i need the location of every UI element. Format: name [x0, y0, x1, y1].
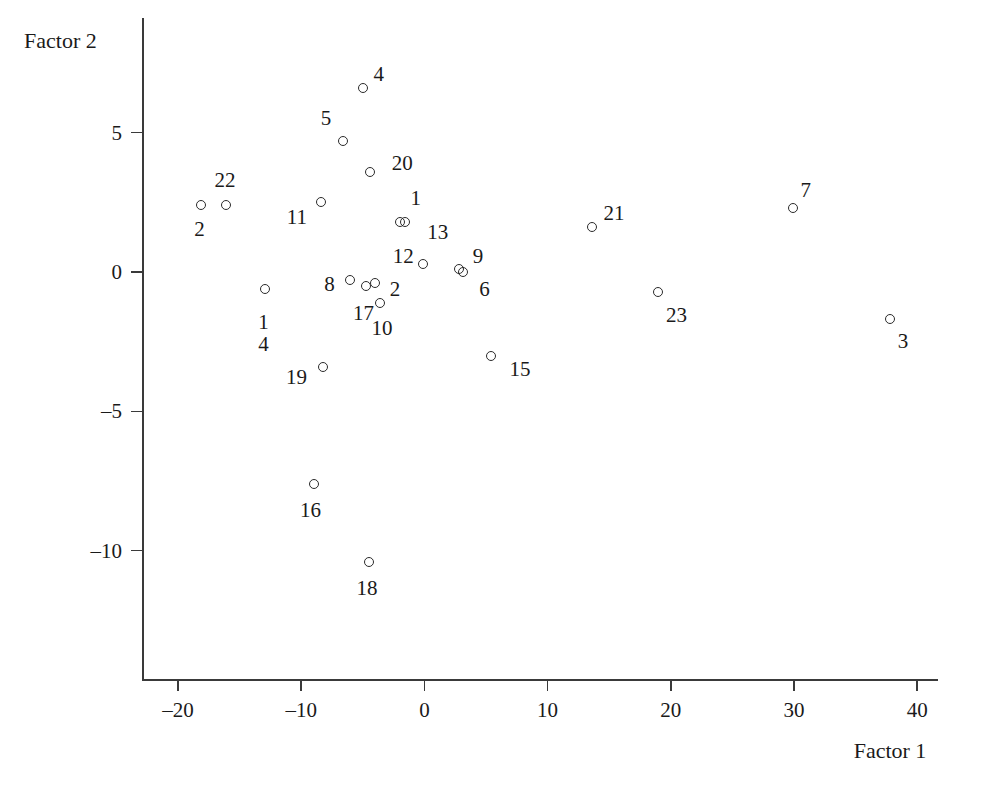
data-point-marker[interactable]	[458, 267, 468, 277]
data-point-marker[interactable]	[375, 298, 385, 308]
x-axis-line	[142, 679, 938, 681]
data-point-label: 4	[374, 64, 385, 85]
y-tick-mark	[131, 411, 142, 413]
data-point-label: 9	[473, 246, 484, 267]
data-point-marker[interactable]	[309, 479, 319, 489]
x-tick-mark	[793, 680, 795, 691]
data-point-marker[interactable]	[196, 200, 206, 210]
data-point-label: 2	[390, 279, 401, 300]
data-point-label: 23	[666, 304, 687, 325]
x-tick-label: 0	[419, 700, 430, 721]
data-point-label: 5	[321, 108, 332, 129]
y-tick-label: 0	[70, 262, 122, 283]
y-tick-label: 5	[70, 122, 122, 143]
data-point-marker[interactable]	[260, 284, 270, 294]
scatter-plot: –20–10010203040 50–5–10 4520222111132171…	[0, 0, 1002, 796]
x-tick-mark	[547, 680, 549, 691]
data-point-label: 6	[479, 279, 490, 300]
x-tick-mark	[916, 680, 918, 691]
data-point-marker[interactable]	[364, 557, 374, 567]
data-point-marker[interactable]	[358, 83, 368, 93]
data-point-marker[interactable]	[653, 287, 663, 297]
data-point-marker[interactable]	[400, 217, 410, 227]
x-tick-mark	[300, 680, 302, 691]
data-point-marker[interactable]	[885, 314, 895, 324]
data-point-marker[interactable]	[221, 200, 231, 210]
data-point-label: 2	[194, 219, 205, 240]
data-point-label: 11	[287, 207, 307, 228]
data-point-label: 10	[372, 317, 393, 338]
x-axis-title: Factor 1	[854, 740, 927, 762]
x-tick-label: –20	[162, 700, 194, 721]
data-point-label: 3	[898, 331, 909, 352]
data-point-marker[interactable]	[318, 362, 328, 372]
data-point-marker[interactable]	[788, 203, 798, 213]
data-point-label: 14	[258, 311, 269, 355]
y-tick-label: –10	[70, 540, 122, 561]
data-point-marker[interactable]	[418, 259, 428, 269]
y-tick-mark	[131, 550, 142, 552]
y-tick-mark	[131, 271, 142, 273]
x-tick-label: 40	[907, 700, 928, 721]
y-axis-title: Factor 2	[24, 30, 97, 52]
data-point-label: 1	[411, 187, 422, 208]
data-point-marker[interactable]	[345, 275, 355, 285]
data-point-label: 13	[427, 221, 448, 242]
data-point-label: 20	[392, 152, 413, 173]
y-tick-label: –5	[70, 401, 122, 422]
data-point-label: 18	[356, 577, 377, 598]
data-point-label: 22	[215, 170, 236, 191]
data-point-marker[interactable]	[370, 278, 380, 288]
data-point-marker[interactable]	[338, 136, 348, 146]
data-point-label: 7	[801, 179, 812, 200]
x-tick-label: 10	[537, 700, 558, 721]
data-point-marker[interactable]	[365, 167, 375, 177]
x-tick-mark	[177, 680, 179, 691]
data-point-marker[interactable]	[316, 197, 326, 207]
data-point-label: 12	[393, 245, 414, 266]
data-point-marker[interactable]	[486, 351, 496, 361]
data-point-label: 8	[324, 274, 335, 295]
data-point-marker[interactable]	[361, 281, 371, 291]
x-tick-label: 20	[660, 700, 681, 721]
y-tick-mark	[131, 132, 142, 134]
x-tick-label: –10	[285, 700, 317, 721]
y-axis-line	[142, 18, 144, 680]
x-tick-mark	[424, 680, 426, 691]
data-point-label: 16	[300, 499, 321, 520]
x-tick-mark	[670, 680, 672, 691]
x-tick-label: 30	[784, 700, 805, 721]
data-point-label: 19	[286, 366, 307, 387]
data-point-label: 15	[509, 358, 530, 379]
data-point-marker[interactable]	[587, 222, 597, 232]
data-point-label: 21	[603, 203, 624, 224]
